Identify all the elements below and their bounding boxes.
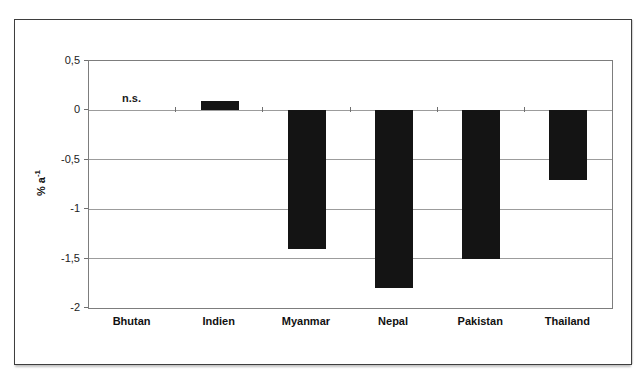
gridline xyxy=(89,110,612,111)
y-tick-label: -1 xyxy=(20,202,80,214)
category-label-bhutan: Bhutan xyxy=(88,315,175,327)
bar-thailand xyxy=(549,110,587,179)
y-axis-title: % a-1 xyxy=(33,170,47,196)
gridline xyxy=(89,209,612,210)
figure: % a-1 0,50-0,5-1-1,5-2BhutanIndienMyanma… xyxy=(0,0,644,379)
y-axis-tick xyxy=(84,109,88,110)
y-tick-label: -1,5 xyxy=(20,252,80,264)
zero-axis-tick xyxy=(175,107,176,112)
category-label-indien: Indien xyxy=(175,315,262,327)
category-label-pakistan: Pakistan xyxy=(437,315,524,327)
zero-axis-tick xyxy=(524,107,525,112)
category-label-thailand: Thailand xyxy=(524,315,611,327)
bar-pakistan xyxy=(462,110,500,258)
bar-indien xyxy=(201,101,239,111)
annotation-ns: n.s. xyxy=(88,92,175,104)
y-axis-title-superscript: -1 xyxy=(33,170,42,177)
y-axis-tick xyxy=(84,60,88,61)
bar-nepal xyxy=(375,110,413,288)
zero-axis-tick xyxy=(262,107,263,112)
gridline xyxy=(89,159,612,160)
y-axis-title-text: % a xyxy=(35,177,47,196)
y-tick-label: 0,5 xyxy=(20,54,80,66)
y-axis-tick xyxy=(84,307,88,308)
y-axis-tick xyxy=(84,258,88,259)
y-tick-label: -2 xyxy=(20,301,80,313)
zero-axis-tick xyxy=(437,107,438,112)
y-tick-label: -0,5 xyxy=(20,153,80,165)
zero-axis-tick xyxy=(350,107,351,112)
y-axis-tick xyxy=(84,208,88,209)
y-tick-label: 0 xyxy=(20,103,80,115)
gridline xyxy=(89,258,612,259)
category-label-nepal: Nepal xyxy=(350,315,437,327)
category-label-myanmar: Myanmar xyxy=(262,315,349,327)
bar-myanmar xyxy=(288,110,326,248)
y-axis-tick xyxy=(84,159,88,160)
